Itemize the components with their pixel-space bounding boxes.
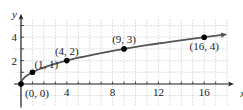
data-point [121,46,127,52]
curve-arrow-icon [221,32,227,37]
point-labels: (0, 0)(1, 1)(4, 2)(9, 3)(16, 4) [25,33,219,100]
y-tick-label: 2 [12,55,18,67]
point-label: (0, 0) [25,87,49,100]
data-point [30,70,36,76]
data-point [18,81,24,87]
point-label: (4, 2) [55,45,79,58]
x-tick-label: 12 [153,86,164,98]
y-axis-label: y [11,8,17,20]
data-point [201,34,207,40]
point-label: (16, 4) [190,40,220,53]
point-label: (9, 3) [112,33,136,46]
x-axis-label: x [239,87,243,99]
data-point [64,58,70,64]
sqrt-function-chart: 48121624 (0, 0)(1, 1)(4, 2)(9, 3)(16, 4)… [0,0,243,110]
y-tick-label: 4 [12,31,18,43]
point-label: (1, 1) [34,58,58,71]
x-tick-label: 4 [64,86,70,98]
x-tick-label: 16 [199,86,211,98]
x-tick-label: 8 [110,86,116,98]
